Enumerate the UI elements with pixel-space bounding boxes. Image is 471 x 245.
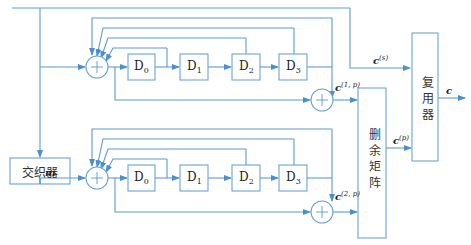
encoder-1 [86,18,357,111]
turbo-encoder-diagram [0,0,471,245]
delay-d1-1: D1 [187,59,202,75]
delay-d1-2: D1 [187,170,202,186]
codeword-output-label: c [446,85,452,96]
delay-d2-1: D2 [239,59,254,75]
delay-d0-2: D0 [134,170,149,186]
delay-d2-2: D2 [239,170,254,186]
puncturing-matrix-label: 删余矩阵 [365,128,382,192]
systematic-output-label: c(s) [373,54,388,66]
interleaved-input-label: m′ [45,166,57,178]
parity-1-label: c(1, p) [335,81,360,93]
delay-d0-1: D0 [134,59,149,75]
delay-d3-2: D3 [286,170,301,186]
multiplexer-label: 复用器 [418,76,435,124]
punctured-parity-label: c(p) [393,134,409,146]
delay-d3-1: D3 [286,59,301,75]
parity-2-label: c(2, p) [335,190,360,202]
